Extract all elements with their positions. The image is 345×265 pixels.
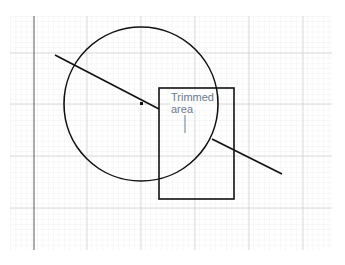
annotation-label: Trimmed area: [171, 91, 214, 115]
annotation-line-1: Trimmed: [171, 91, 214, 103]
grid: [10, 16, 332, 250]
annotation-line-2: area: [171, 103, 214, 115]
center-point: [140, 102, 143, 105]
diagram-canvas: [0, 0, 345, 265]
